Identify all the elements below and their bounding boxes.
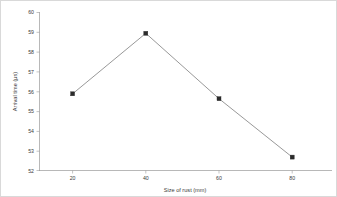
y-tick-label: 55 bbox=[28, 108, 34, 114]
x-tick-label: 20 bbox=[70, 175, 76, 181]
x-tick-label: 40 bbox=[143, 175, 149, 181]
chart-figure: 60 59 58 57 56 55 54 53 52 20 40 60 80 S… bbox=[0, 0, 337, 197]
x-axis-title: Size of rust (mm) bbox=[164, 187, 207, 193]
y-tick-label: 58 bbox=[28, 49, 34, 55]
y-tick-label: 54 bbox=[28, 128, 34, 134]
x-tick-label: 60 bbox=[216, 175, 222, 181]
y-tick-label: 53 bbox=[28, 148, 34, 154]
data-point-marker bbox=[144, 31, 148, 35]
y-tick-label: 57 bbox=[28, 69, 34, 75]
y-tick-label: 59 bbox=[28, 29, 34, 35]
data-point-marker bbox=[71, 92, 75, 96]
y-axis-title: Arrival time (μs) bbox=[12, 72, 18, 111]
y-tick-label: 52 bbox=[28, 168, 34, 174]
plot-background bbox=[39, 12, 332, 171]
y-tick-label: 56 bbox=[28, 89, 34, 95]
x-tick-label: 80 bbox=[289, 175, 295, 181]
y-tick-label: 60 bbox=[28, 9, 34, 15]
data-point-marker bbox=[290, 155, 294, 159]
data-point-marker bbox=[217, 97, 221, 101]
line-chart: 60 59 58 57 56 55 54 53 52 20 40 60 80 S… bbox=[1, 1, 337, 197]
